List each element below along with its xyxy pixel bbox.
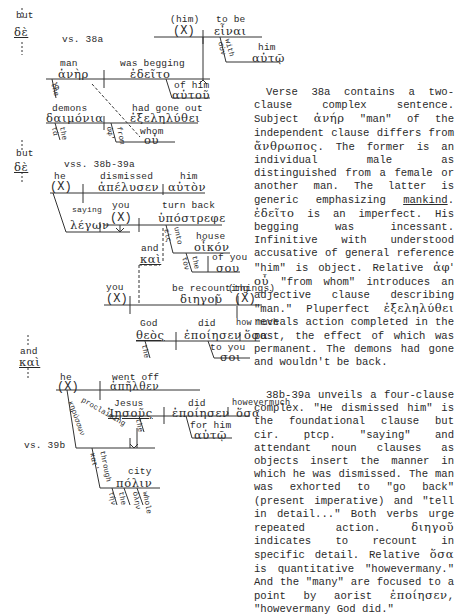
verse-label: vs. 38a — [62, 34, 103, 45]
commentary-paragraph-2: 38b-39a unveils a four-clause complex. "… — [254, 389, 454, 616]
verse-label: vss. 38b-39a — [64, 159, 135, 170]
rel-subject-gk: Ἰησοῦς — [108, 406, 153, 420]
participle-en: saying — [72, 205, 102, 214]
rel-subject-gk: θεὸς — [136, 328, 165, 342]
sub2-verb-gk: διηγοῦ — [180, 292, 223, 306]
sub1-verb-en: turn back — [162, 200, 215, 211]
rel-verb-gk: ἐποίησεν — [172, 406, 230, 420]
connector-greek: δὲ — [14, 25, 28, 39]
connector-greek: καὶ — [19, 355, 40, 369]
sub1-subject-gk: (X) — [110, 211, 132, 225]
article-gk: ὁ — [54, 82, 60, 92]
commentary-paragraph-1: Verse 38a contains a two-clause complex … — [254, 86, 454, 369]
infinitive-gk: εἶναι — [214, 24, 247, 38]
verse-label: vs. 39b — [24, 440, 65, 451]
verb-gk: ἐδεῖτο — [130, 67, 170, 81]
connector-greek: δὲ — [14, 160, 28, 174]
sub2-subject-gk: (X) — [106, 292, 128, 306]
rel-obj-gk: οὗ — [144, 133, 159, 147]
participle-gk: λέγων — [70, 218, 110, 232]
inf-subject-gk: (X) — [173, 24, 195, 38]
sub1-gen-gk: σου — [216, 261, 240, 275]
main-object-gk: αὐτὸν — [168, 180, 206, 194]
connector-label-en: but — [16, 148, 34, 159]
rel-io-gk: σοι — [220, 350, 241, 364]
with-obj-gk: αὐτῷ — [252, 51, 285, 65]
prep-obj-gk: πόλιν — [116, 476, 152, 490]
main-verb-gk: ἀπέλυσεν — [98, 180, 159, 194]
rel-verb-gk: ἐξεληλύθει — [130, 111, 200, 125]
sub1-subject-en: you — [112, 200, 130, 211]
main-verb-gk: ἀπῆλθεν — [110, 380, 159, 392]
sub2-obj-gk: (X) — [234, 292, 256, 306]
rel-io-gk: αὐτῷ — [194, 428, 227, 442]
sub1-verb-gk: ὑπόστρεφε — [158, 211, 226, 225]
rel-subject-gk: δαιμόνια — [46, 111, 104, 125]
connector-label-en: but — [16, 10, 34, 21]
main-subject-gk: (X) — [57, 380, 79, 394]
rel-verb-gk: ἐποίησεν — [184, 328, 242, 342]
rel-article-gk: τὰ — [50, 126, 59, 136]
main-subject-gk: (X) — [50, 180, 72, 194]
genitive-gk: αὐτοῦ — [172, 88, 210, 102]
subject-gk: ἀνὴρ — [58, 67, 89, 81]
conj-gk: καὶ — [140, 252, 161, 266]
